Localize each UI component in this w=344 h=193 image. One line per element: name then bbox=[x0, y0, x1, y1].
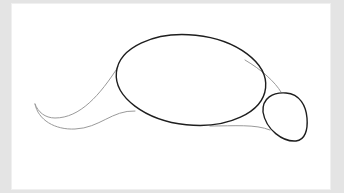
body-oval bbox=[112, 27, 271, 132]
belly-guide bbox=[210, 126, 270, 130]
sketch-drawing bbox=[0, 0, 344, 193]
back-guide bbox=[245, 60, 281, 92]
picture-frame bbox=[0, 0, 344, 193]
tail-upper-guide bbox=[35, 67, 118, 118]
head-shape bbox=[263, 93, 307, 141]
tail-lower-guide bbox=[35, 104, 135, 129]
